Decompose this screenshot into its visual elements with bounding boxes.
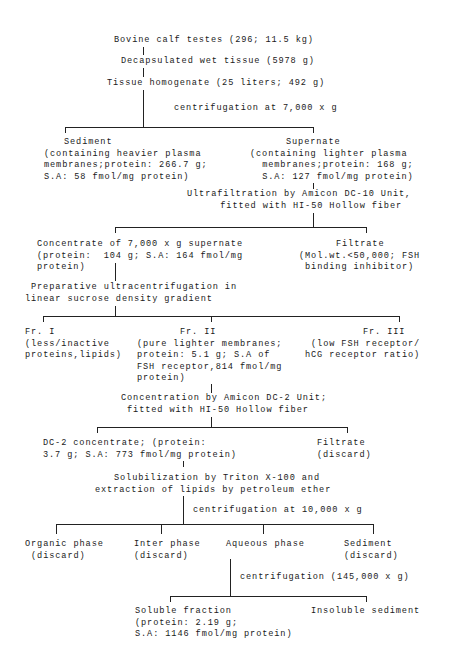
- connector: [347, 427, 348, 433]
- step-centrifuge-7000: centrifugation at 7,000 x g: [174, 103, 338, 115]
- node-fraction-1: Fr. I (less/inactive proteins,lipids): [25, 327, 122, 362]
- connector: [143, 90, 144, 127]
- connector: [115, 263, 116, 281]
- connector: [56, 524, 57, 534]
- connector: [263, 524, 264, 534]
- branch-line: [97, 427, 348, 428]
- connector: [170, 596, 171, 602]
- node-sediment-1: Sediment (containing heavier plasma memb…: [44, 137, 208, 183]
- connector: [43, 316, 44, 322]
- connector: [97, 427, 98, 433]
- branch-line: [65, 127, 314, 128]
- connector: [183, 496, 184, 524]
- connector: [211, 316, 212, 322]
- branch-line: [170, 596, 367, 597]
- node-soluble-fraction: Soluble fraction (protein: 2.19 g; S.A: …: [135, 606, 292, 641]
- node-dc2-concentrate: DC-2 concentrate; (protein: 3.7 g; S.A: …: [43, 438, 237, 461]
- connector: [366, 596, 367, 602]
- connector: [115, 306, 116, 316]
- connector: [211, 384, 212, 393]
- step-ultracentrifugation: Preparative ultracentrifugation in linea…: [25, 282, 237, 305]
- node-homog: Tissue homogenate (25 liters; 492 g): [107, 78, 325, 90]
- step-ultrafiltration: Ultrafiltration by Amicon DC-10 Unit, fi…: [187, 189, 411, 212]
- node-fraction-2: Fr. II (pure lighter membranes; protein:…: [137, 327, 282, 385]
- connector: [399, 316, 400, 322]
- node-inter-phase: Inter phase (discard): [134, 539, 201, 562]
- node-fraction-3: Fr. III (low FSH receptor/ hCG receptor …: [305, 327, 420, 362]
- connector: [143, 68, 144, 77]
- connector: [161, 524, 162, 534]
- branch-line: [56, 524, 374, 525]
- connector: [366, 227, 367, 233]
- connector: [183, 461, 184, 467]
- connector: [143, 47, 144, 55]
- connector: [115, 227, 116, 233]
- node-filtrate-2: Filtrate (discard): [317, 438, 372, 461]
- connector: [65, 127, 66, 133]
- connector: [230, 559, 231, 596]
- node-aqueous-phase: Aqueous phase: [226, 539, 305, 551]
- branch-line: [115, 227, 367, 228]
- step-concentration-dc2: Concentration by Amicon DC-2 Unit; fitte…: [121, 393, 327, 416]
- connector: [313, 213, 314, 227]
- branch-line: [43, 316, 400, 317]
- node-organic-phase: Organic phase (discard): [25, 539, 104, 562]
- node-start: Bovine calf testes (296; 11.5 kg): [114, 35, 314, 47]
- connector: [373, 524, 374, 534]
- node-concentrate: Concentrate of 7,000 x g supernate (prot…: [37, 239, 243, 274]
- purification-flowchart: Bovine calf testes (296; 11.5 kg) Decaps…: [0, 0, 450, 666]
- node-sediment-2: Sediment (discard): [344, 539, 399, 562]
- connector: [211, 417, 212, 427]
- step-centrifuge-145000: centrifugation (145,000 x g): [240, 572, 410, 584]
- node-decap: Decapsulated wet tissue (5978 g): [121, 56, 315, 68]
- node-filtrate-1: Filtrate (Mol.wt.<50,000; FSH binding in…: [299, 239, 420, 274]
- node-supernate: Supernate (containing lighter plasma mem…: [250, 137, 414, 183]
- step-solubilization: Solubilization by Triton X-100 and extra…: [95, 473, 331, 496]
- node-insoluble-sediment: Insoluble sediment: [311, 606, 420, 618]
- connector: [313, 127, 314, 133]
- step-centrifuge-10000: centrifugation at 10,000 x g: [193, 505, 363, 517]
